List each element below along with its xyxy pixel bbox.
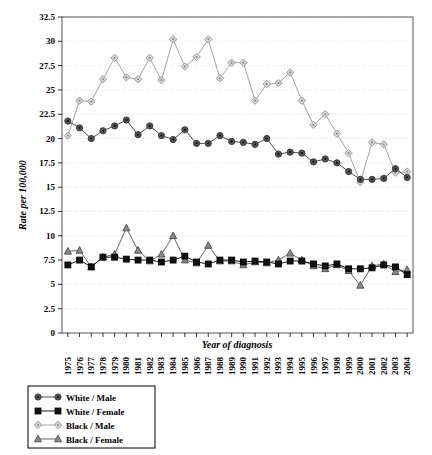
data-point-square: [369, 265, 375, 271]
data-point-diamond: [169, 36, 176, 43]
data-point-circle: [123, 117, 129, 123]
series-black-male: [64, 36, 411, 186]
data-point-diamond: [134, 76, 141, 83]
x-tick-label-1986: 1986: [192, 357, 202, 376]
data-point-square: [55, 408, 61, 414]
data-point-square: [100, 254, 106, 260]
data-point-square: [287, 258, 293, 264]
data-point-diamond: [380, 141, 387, 148]
x-tick-label-1981: 1981: [133, 357, 143, 376]
data-point-triangle: [123, 224, 130, 231]
data-point-square: [264, 259, 270, 265]
y-tick-label: 17.5: [39, 158, 55, 168]
x-tick-label-2004: 2004: [402, 357, 412, 376]
data-point-square: [65, 262, 71, 268]
data-point-diamond: [251, 97, 258, 104]
x-tick-label-1985: 1985: [180, 357, 190, 376]
data-point-circle: [240, 139, 246, 145]
data-point-square: [88, 264, 94, 270]
data-point-square: [404, 272, 410, 278]
data-point-square: [346, 266, 352, 272]
legend-item-white-male[interactable]: White / Male: [35, 393, 116, 403]
legend-item-black-male[interactable]: Black / Male: [34, 421, 114, 431]
data-point-circle: [264, 135, 270, 141]
x-axis-title-label: Year of diagnosis: [202, 339, 273, 350]
data-point-square: [299, 258, 305, 264]
x-tick-label-1988: 1988: [215, 357, 225, 376]
x-tick-label-2003: 2003: [390, 357, 400, 376]
data-point-circle: [334, 160, 340, 166]
data-point-square: [381, 262, 387, 268]
series-line: [68, 120, 407, 179]
data-point-diamond: [76, 97, 83, 104]
data-point-square: [322, 263, 328, 269]
x-tick-label-1991: 1991: [250, 357, 260, 376]
data-point-diamond: [216, 75, 223, 82]
x-tick-label-1993: 1993: [273, 357, 283, 376]
data-point-triangle: [76, 247, 83, 254]
y-axis-title-label: Rate per 100,000: [17, 160, 28, 231]
data-point-circle: [392, 166, 398, 172]
legend-item-white-female[interactable]: White / Female: [35, 407, 124, 417]
x-tick-label-1977: 1977: [86, 357, 96, 376]
data-point-square: [123, 256, 129, 262]
x-tick-label-1976: 1976: [75, 357, 85, 376]
x-tick-label-1999: 1999: [344, 357, 354, 376]
data-point-circle: [275, 151, 281, 157]
data-point-circle: [182, 127, 188, 133]
data-point-square: [170, 257, 176, 263]
series-white-male: [65, 117, 411, 183]
data-point-circle: [76, 125, 82, 131]
data-point-square: [205, 261, 211, 267]
data-point-triangle: [287, 249, 294, 256]
data-point-diamond: [205, 36, 212, 43]
data-point-circle: [287, 149, 293, 155]
x-axis-title: Year of diagnosis: [202, 339, 273, 350]
x-tick-label-1995: 1995: [297, 357, 307, 376]
data-point-square: [357, 266, 363, 272]
y-tick-label: 5: [51, 279, 56, 289]
x-tick-label-1992: 1992: [262, 357, 272, 376]
x-tick-label-2001: 2001: [367, 357, 377, 376]
data-point-square: [35, 408, 41, 414]
x-tick-label-1982: 1982: [145, 357, 155, 376]
data-point-square: [311, 261, 317, 267]
data-point-circle: [55, 394, 61, 400]
data-point-square: [147, 257, 153, 263]
y-tick-label: 25: [46, 85, 56, 95]
data-point-circle: [100, 128, 106, 134]
y-tick-label: 10: [46, 231, 56, 241]
x-tick-label-1987: 1987: [203, 357, 213, 376]
data-point-diamond: [345, 149, 352, 156]
data-point-diamond: [263, 80, 270, 87]
data-point-square: [217, 257, 223, 263]
data-point-diamond: [158, 77, 165, 84]
data-point-square: [135, 257, 141, 263]
data-point-triangle: [205, 242, 212, 249]
data-point-triangle: [55, 435, 62, 442]
data-point-square: [194, 259, 200, 265]
data-point-diamond: [298, 97, 305, 104]
data-point-triangle: [158, 250, 165, 257]
data-point-diamond: [99, 76, 106, 83]
x-tick-label-1990: 1990: [238, 357, 248, 376]
x-tick-label-1989: 1989: [227, 357, 237, 376]
x-tick-label-1994: 1994: [285, 357, 295, 376]
data-point-square: [334, 261, 340, 267]
data-point-circle: [357, 176, 363, 182]
data-point-diamond: [54, 421, 61, 428]
x-tick-label-1983: 1983: [156, 357, 166, 376]
data-point-diamond: [240, 59, 247, 66]
legend-item-black-female[interactable]: Black / Female: [35, 435, 124, 445]
data-point-circle: [252, 141, 258, 147]
x-tick-label-1980: 1980: [121, 357, 131, 376]
data-point-triangle: [135, 247, 142, 254]
x-tick-label-2002: 2002: [379, 357, 389, 376]
chart-legend: White / MaleWhite / FemaleBlack / MaleBl…: [28, 386, 155, 448]
data-point-square: [182, 253, 188, 259]
data-point-circle: [158, 133, 164, 139]
data-point-circle: [135, 132, 141, 138]
x-tick-label-1998: 1998: [332, 357, 342, 376]
data-point-circle: [65, 118, 71, 124]
data-point-diamond: [64, 132, 71, 139]
